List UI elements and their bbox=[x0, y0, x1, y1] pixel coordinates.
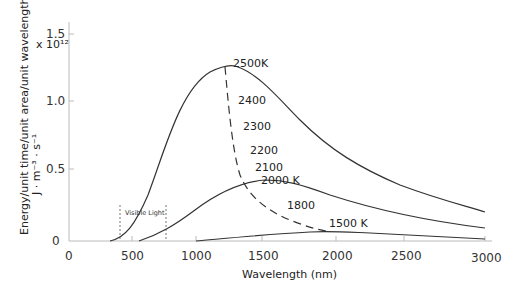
y-tick-label: 1.0 bbox=[46, 94, 65, 108]
x-tick-label: 1500 bbox=[248, 249, 279, 263]
locus-label: 2400 bbox=[238, 94, 266, 107]
y-multiplier: x 10¹² bbox=[36, 38, 69, 51]
y-ticks bbox=[69, 34, 74, 169]
x-tick-label: 500 bbox=[121, 249, 144, 263]
blackbody-chart: 1.5 x 10¹² 1.0 0.5 0 0 500 1000 1500 200… bbox=[0, 0, 514, 295]
locus-label: 2100 bbox=[255, 161, 283, 174]
locus-label: 2500K bbox=[233, 57, 269, 70]
locus-label: 2300 bbox=[243, 120, 271, 133]
y-axis-label: Energy/unit time/unit area/unit waveleng… bbox=[18, 0, 31, 235]
y-tick-label: 0 bbox=[52, 234, 60, 248]
visible-light-label: Visible Light bbox=[125, 209, 165, 217]
locus-label: 2200 bbox=[250, 144, 278, 157]
x-tick-label: 3000 bbox=[471, 251, 502, 265]
x-axis-label: Wavelength (nm) bbox=[242, 268, 337, 281]
x-tick-label: 0 bbox=[65, 249, 73, 263]
locus-label: 2000 K bbox=[261, 174, 300, 187]
locus-label: 1500 K bbox=[329, 217, 368, 230]
x-tick-label: 2000 bbox=[322, 249, 353, 263]
curve-1500k bbox=[196, 232, 485, 241]
y-axis-units: J · m⁻³ · s⁻¹ bbox=[30, 134, 43, 196]
x-tick-label: 1000 bbox=[181, 249, 212, 263]
locus-label: 1800 bbox=[287, 199, 315, 212]
y-tick-label: 0.5 bbox=[46, 162, 65, 176]
x-tick-label: 2500 bbox=[391, 249, 422, 263]
